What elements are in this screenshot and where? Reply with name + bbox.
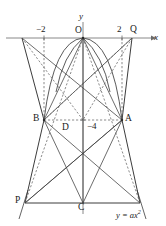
tail-bottom-left — [19, 190, 28, 219]
frame-left-edge — [22, 38, 44, 120]
equation-base: y = ax — [116, 210, 138, 220]
geometry-figure: y x O −2 2 Q B A D −4 P C y = ax2 — [0, 0, 166, 226]
parabola-equation-label: y = ax2 — [116, 209, 141, 219]
line-A-to-C — [83, 120, 122, 203]
frame-right-edge — [122, 38, 132, 120]
x-axis-label: x — [154, 33, 158, 42]
line-O-to-B — [44, 38, 83, 120]
point-label-O: O — [75, 26, 82, 36]
tick-label-neg-two: −2 — [36, 25, 46, 34]
y-axis-label: y — [79, 12, 83, 21]
figure-canvas — [0, 0, 166, 226]
dot-A — [121, 119, 123, 121]
line-P-to-A-edge — [25, 120, 122, 203]
tick-label-neg-four: −4 — [87, 122, 97, 131]
point-label-C: C — [78, 203, 84, 213]
point-label-Q: Q — [130, 25, 137, 35]
line-B-to-bottomright — [44, 120, 140, 203]
dashed-topleft-to-D — [22, 38, 83, 120]
line-O-to-A — [83, 38, 122, 120]
dot-B — [43, 119, 45, 121]
axis-group — [6, 22, 156, 214]
point-label-D: D — [62, 123, 69, 133]
point-label-A: A — [125, 114, 132, 124]
equation-exponent: 2 — [138, 209, 141, 215]
dot-O — [82, 37, 84, 39]
point-label-B: B — [33, 114, 39, 124]
tick-label-two: 2 — [117, 25, 122, 34]
point-label-P: P — [15, 196, 20, 206]
